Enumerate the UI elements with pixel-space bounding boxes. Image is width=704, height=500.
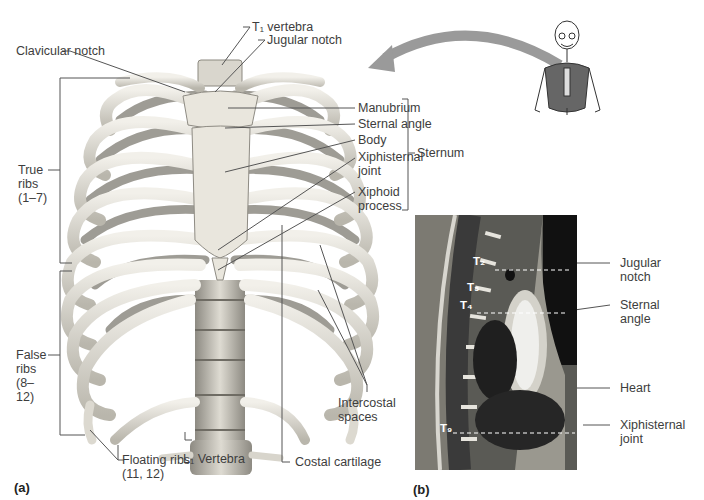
rib-cage-illustration [0, 0, 704, 500]
curved-arrow [385, 36, 560, 65]
label-body: Body [358, 133, 387, 147]
label-intercostal-spaces: Intercostal spaces [338, 396, 408, 424]
mri-sagittal-image: T₂ T₃ T₄ T₉ [415, 215, 577, 470]
label-sternal-angle: Sternal angle [358, 117, 432, 131]
panel-b-label: (b) [413, 482, 430, 497]
label-true-ribs: True ribs (1–7) [18, 163, 50, 205]
label-jugular-notch: Jugular notch [267, 33, 342, 47]
label-sternum: Sternum [417, 146, 464, 160]
label-b-xiphisternal-joint: Xiphisternal joint [620, 418, 700, 446]
label-false-ribs: False ribs (8–12) [16, 348, 52, 404]
label-b-heart: Heart [620, 381, 651, 395]
label-l1-vertebra: L₁ Vertebra [183, 452, 245, 466]
label-b-jugular-notch: Jugular notch [620, 256, 680, 284]
panel-a-label: (a) [14, 480, 30, 495]
label-t1-vertebra: T₁ vertebra [252, 20, 313, 34]
sternum-bone [183, 91, 258, 280]
label-b-sternal-angle: Sternal angle [620, 298, 675, 326]
skeleton-thumbnail [535, 21, 600, 115]
label-clavicular-notch: Clavicular notch [16, 44, 105, 58]
label-costal-cartilage: Costal cartilage [295, 455, 381, 469]
label-xiphoid-process: Xiphoid process [358, 185, 418, 213]
label-manubrium: Manubrium [358, 101, 421, 115]
